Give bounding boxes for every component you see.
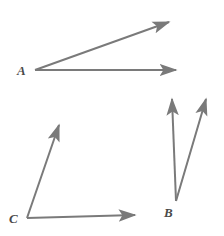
ray-a-upper — [35, 22, 169, 70]
ray-c-horizontal — [27, 215, 135, 218]
vertex-label-c: C — [9, 212, 18, 225]
ray-b-slanted — [176, 99, 206, 201]
ray-b-vertical — [172, 99, 176, 201]
angles-canvas — [0, 0, 224, 236]
vertex-label-b: B — [164, 206, 173, 219]
ray-c-upper — [27, 125, 59, 218]
vertex-label-a: A — [17, 64, 26, 77]
angle-a — [35, 22, 176, 70]
angle-b — [172, 99, 206, 201]
angles-figure: A B C — [0, 0, 224, 236]
angle-c — [27, 125, 135, 218]
